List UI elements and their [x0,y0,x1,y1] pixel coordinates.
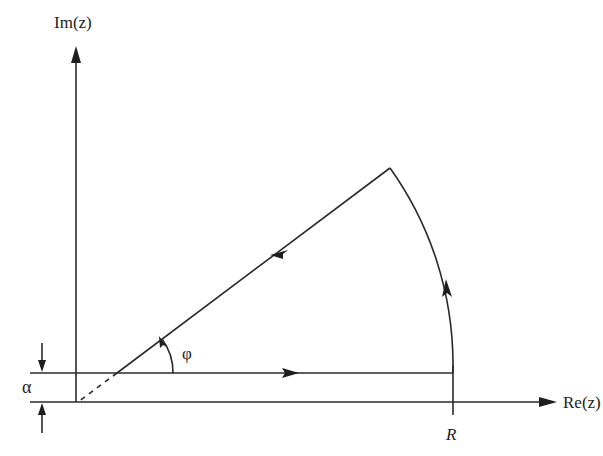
contour-diagram: Im(z) Re(z) R φ α [0,0,603,456]
alpha-down-arrow-icon [38,360,46,372]
alpha-label: α [22,377,32,397]
imaginary-axis-label: Im(z) [54,13,92,32]
arc-segment [390,168,453,373]
ray-segment [117,168,390,373]
alpha-up-arrow-icon [38,403,46,415]
real-axis-arrow-icon [539,397,557,407]
imaginary-axis-arrow-icon [71,46,81,63]
dashed-extension [78,373,117,402]
real-axis-label: Re(z) [563,393,601,412]
angle-label: φ [182,344,192,363]
radius-label: R [445,425,457,444]
